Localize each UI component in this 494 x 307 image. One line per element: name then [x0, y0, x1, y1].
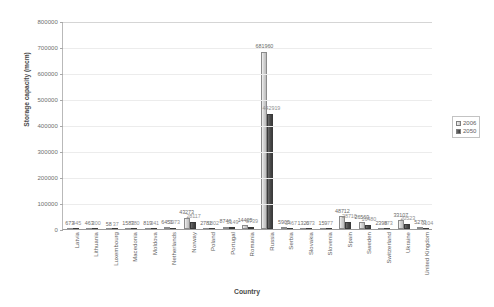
chart-legend: 2006 2050: [452, 116, 480, 138]
bar[interactable]: [131, 228, 137, 229]
bar[interactable]: [92, 228, 98, 229]
x-axis-tick-label: Romania: [249, 232, 255, 256]
bar-value-label-2050: 3467: [285, 220, 297, 226]
gridline: [63, 100, 432, 101]
bar-value-label-2050: 973: [384, 220, 393, 226]
gridline: [63, 22, 432, 23]
bar-value-label-2050: 341: [150, 220, 159, 226]
y-axis-tick-label: 500000: [6, 97, 58, 103]
y-axis-tick-label: 0: [6, 227, 58, 233]
bar[interactable]: [384, 228, 390, 229]
bar-value-label-2050: 77: [327, 220, 333, 226]
bar[interactable]: [170, 228, 176, 229]
bar-chart: 6734454633005837158378081934164513973432…: [0, 0, 494, 307]
gridline: [63, 126, 432, 127]
legend-item-2050[interactable]: 2050: [456, 128, 476, 134]
bar-value-label-2050: 3104: [421, 220, 433, 226]
bar-value-label-2050: 37: [113, 221, 119, 227]
x-axis-tick-label: Norway: [191, 232, 197, 253]
x-axis-tick-label: Latvia: [74, 232, 80, 248]
y-axis-tick-label: 200000: [6, 175, 58, 181]
bar[interactable]: [326, 228, 332, 229]
x-axis-tick-label: Ukraine: [405, 232, 411, 253]
bar-value-label-2050: 1802: [207, 220, 219, 226]
gridline: [63, 204, 432, 205]
bar-value-label-2050: 673: [306, 220, 315, 226]
legend-swatch-2006-icon: [456, 121, 461, 126]
x-axis-tick-label: Slovakia: [308, 232, 314, 255]
bar-value-label-2050: 300: [92, 220, 101, 226]
x-axis-tick-label: Netherlands: [171, 232, 177, 265]
legend-label-2050: 2050: [463, 128, 476, 134]
x-axis-title: Country: [0, 288, 494, 295]
x-axis-tick-label: United Kingdom: [424, 232, 430, 275]
bar[interactable]: [190, 222, 196, 229]
bar[interactable]: [287, 228, 293, 229]
legend-swatch-2050-icon: [456, 129, 461, 134]
gridline: [63, 178, 432, 179]
bar-value-label-2006: 58: [106, 221, 112, 227]
x-axis-tick-label: Poland: [210, 232, 216, 251]
gridline: [63, 152, 432, 153]
bar[interactable]: [306, 228, 312, 229]
y-axis-title: Storage capacity (mcm): [23, 20, 30, 160]
gridline: [63, 48, 432, 49]
bar[interactable]: [73, 228, 79, 229]
x-axis-tick-label: Spain: [347, 232, 353, 248]
y-axis-tick-label: 300000: [6, 149, 58, 155]
x-axis-tick-label: Serbia: [288, 232, 294, 250]
bar[interactable]: [345, 222, 351, 229]
y-axis-tick-label: 100000: [6, 201, 58, 207]
bar-value-label-2050: 445: [72, 220, 81, 226]
x-axis-tick-label: Luxembourg: [113, 232, 119, 266]
x-axis-tick-label: Slovenia: [327, 232, 333, 255]
plot-area: 6734454633005837158378081934164513973432…: [62, 22, 432, 230]
x-axis-tick-label: Portugal: [230, 232, 236, 255]
bar-value-label-2050: 780: [131, 220, 140, 226]
bar-value-label-2050: 3973: [168, 219, 180, 225]
bar[interactable]: [112, 228, 118, 229]
x-axis-tick-label: Russia: [269, 232, 275, 251]
bar[interactable]: [248, 227, 254, 229]
legend-label-2006: 2006: [463, 120, 476, 126]
bar[interactable]: [151, 228, 157, 229]
legend-item-2006[interactable]: 2006: [456, 120, 476, 126]
bar[interactable]: [267, 114, 273, 229]
y-axis-tick-label: 800000: [6, 19, 58, 25]
x-axis-tick-label: Macedonia: [132, 232, 138, 262]
x-axis-tick-label: Moldova: [152, 232, 158, 255]
x-axis-tick-label: Sweden: [366, 232, 372, 254]
bar[interactable]: [365, 225, 371, 229]
y-axis-tick-label: 600000: [6, 71, 58, 77]
x-axis-tick-label: Switzerland: [386, 232, 392, 264]
y-axis-tick-mark: [60, 230, 63, 231]
bar[interactable]: [229, 227, 235, 229]
gridline: [63, 74, 432, 75]
x-axis-labels: LatviaLithuaniaLuxembourgMacedoniaMoldov…: [62, 232, 432, 290]
bar[interactable]: [423, 228, 429, 229]
y-axis-tick-label: 400000: [6, 123, 58, 129]
bar[interactable]: [209, 228, 215, 229]
bar[interactable]: [404, 224, 410, 229]
x-axis-tick-label: Lithuania: [93, 232, 99, 257]
bar-value-label-2050: 8739: [246, 218, 258, 224]
y-axis-tick-label: 700000: [6, 45, 58, 51]
